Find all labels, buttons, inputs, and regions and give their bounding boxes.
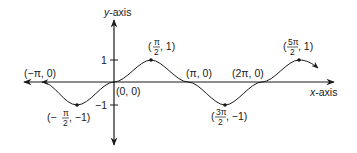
- y-tick-label-neg1: −1: [95, 99, 107, 111]
- label-five-half-pi: ( 5π 2 , 1): [283, 37, 313, 57]
- svg-text:2: 2: [290, 47, 295, 57]
- x-axis-label: x-axis: [309, 86, 337, 98]
- svg-text:, 1): , 1): [160, 40, 175, 52]
- label-three-half-pi: ( 3π 2 , −1): [211, 107, 247, 127]
- svg-text:(−: (−: [47, 111, 57, 123]
- y-axis-label: y-axis: [103, 6, 131, 18]
- svg-text:2: 2: [63, 118, 68, 128]
- svg-text:, −1): , −1): [69, 111, 90, 123]
- label-half-pi: ( π 2 , 1): [148, 37, 175, 57]
- svg-text:(: (: [283, 40, 287, 52]
- svg-text:2: 2: [218, 117, 223, 127]
- point-half-pi: [149, 58, 153, 62]
- y-tick-label-1: 1: [101, 54, 107, 66]
- svg-text:(: (: [211, 110, 215, 122]
- label-neg-pi: (−π, 0): [24, 67, 56, 79]
- label-origin: (0, 0): [116, 85, 141, 97]
- svg-text:, −1): , −1): [226, 110, 247, 122]
- label-two-pi: (2π, 0): [232, 67, 264, 79]
- sine-graph: y-axis x-axis 1 −1 (−π, 0) (0, 0) (π, 0)…: [0, 0, 357, 153]
- point-neg-half-pi: [75, 103, 79, 107]
- svg-text:2: 2: [154, 47, 159, 57]
- svg-text:(: (: [148, 40, 152, 52]
- point-five-half-pi: [297, 58, 301, 62]
- label-neg-half-pi: (− π 2 , −1): [47, 108, 90, 128]
- label-pi: (π, 0): [186, 67, 212, 79]
- svg-text:, 1): , 1): [298, 40, 313, 52]
